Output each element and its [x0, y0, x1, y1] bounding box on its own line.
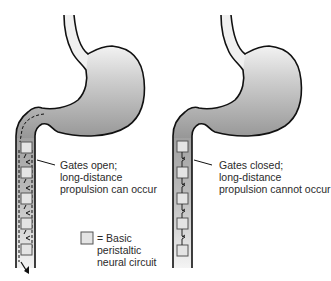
circuit-box	[177, 141, 188, 152]
right-diagram	[173, 15, 301, 268]
circuit-box	[21, 193, 32, 204]
circuit-box	[177, 218, 188, 229]
diagram-canvas	[0, 0, 331, 281]
legend-label: = Basic peristaltic neural circuit	[97, 232, 157, 268]
circuit-box	[21, 218, 32, 229]
circuit-box	[177, 167, 188, 178]
leader-line	[194, 160, 212, 165]
leader-line	[37, 160, 55, 165]
legend-circuit-box	[81, 232, 93, 244]
circuit-box	[177, 193, 188, 204]
circuit-box	[21, 167, 32, 178]
circuit-box	[21, 244, 32, 255]
circuit-box	[21, 142, 32, 153]
left-gate-label: Gates open; long-distance propulsion can…	[60, 159, 157, 195]
circuit-box	[177, 245, 188, 256]
right-gate-label: Gates closed; long-distance propulsion c…	[219, 159, 331, 195]
